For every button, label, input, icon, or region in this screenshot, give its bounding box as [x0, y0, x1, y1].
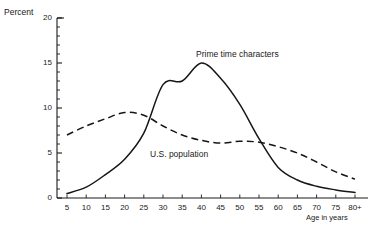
chart-plot-area	[0, 0, 377, 236]
y-tick-label: 0	[36, 194, 52, 202]
annotation-us-population: U.S. population	[150, 150, 208, 159]
x-axis-title: Age in years	[306, 214, 348, 222]
y-tick-label: 10	[36, 104, 52, 112]
y-tick-label: 5	[36, 149, 52, 157]
series-line-prime-time-characters	[67, 63, 355, 194]
x-tick-label: 80+	[344, 204, 366, 212]
y-tick-label: 15	[36, 59, 52, 67]
chart-container: Percent Age in years 05101520 5101520253…	[0, 0, 377, 236]
y-axis-title: Percent	[4, 8, 33, 17]
y-tick-label: 20	[36, 14, 52, 22]
annotation-prime-time-characters: Prime time characters	[196, 50, 279, 59]
series-line-us-population	[67, 112, 355, 179]
